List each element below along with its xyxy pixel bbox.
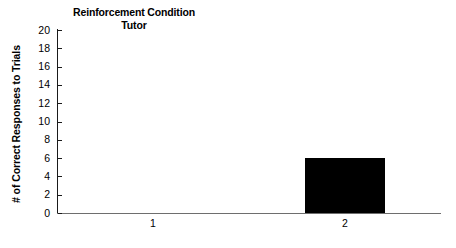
- y-tick-label: 18: [8, 43, 50, 54]
- y-tick-label: 20: [8, 25, 50, 36]
- y-tick-label: 16: [8, 61, 50, 72]
- y-tick-label: 4: [8, 171, 50, 182]
- y-tick-label: 0: [8, 208, 50, 219]
- y-tick-mark: [58, 48, 62, 49]
- x-tick-label-2: 2: [315, 218, 375, 229]
- chart-title-line-1: Reinforcement Condition: [58, 6, 210, 19]
- y-tick-label: 12: [8, 98, 50, 109]
- y-tick-mark: [58, 176, 62, 177]
- y-tick-mark: [58, 158, 62, 159]
- y-tick-mark: [58, 195, 62, 196]
- y-tick-mark: [58, 85, 62, 86]
- bar-2: [305, 158, 385, 213]
- y-tick-label: 10: [8, 116, 50, 127]
- y-tick-label: 6: [8, 153, 50, 164]
- y-tick-mark: [58, 30, 62, 31]
- x-tick-label-1: 1: [123, 218, 183, 229]
- y-tick-mark: [58, 213, 62, 214]
- y-tick-mark: [58, 140, 62, 141]
- x-axis-line: [57, 213, 441, 214]
- y-tick-mark: [58, 103, 62, 104]
- chart-title-line-2: Tutor: [58, 19, 210, 32]
- y-tick-label: 8: [8, 134, 50, 145]
- y-tick-mark: [58, 67, 62, 68]
- bar-chart-figure: Reinforcement Condition Tutor # of Corre…: [0, 0, 456, 248]
- chart-title: Reinforcement Condition Tutor: [58, 6, 210, 32]
- y-tick-label: 14: [8, 79, 50, 90]
- y-tick-mark: [58, 122, 62, 123]
- y-tick-label: 2: [8, 189, 50, 200]
